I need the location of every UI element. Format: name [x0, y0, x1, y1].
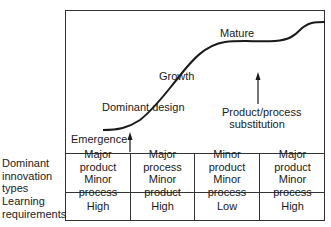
innovation-type-cell-mature: Minor product Minor process	[195, 154, 259, 192]
row-label-line: requirements	[2, 208, 66, 221]
substitution-line-1: Product/process	[222, 106, 292, 118]
learning-cell-emergence: High	[66, 193, 130, 220]
substitution-line-2: substitution	[222, 118, 292, 130]
stage-label-emergence: Emergence	[71, 133, 127, 145]
innovation-type-cell-substitution: Major product Minor process	[260, 154, 325, 192]
table-bottom-border	[65, 220, 325, 221]
learning-cell-dominant-design: High	[131, 193, 194, 220]
substitution-arrow	[256, 72, 261, 104]
substitution-annotation: Product/process substitution	[222, 106, 292, 130]
row-label-line: types	[2, 182, 52, 195]
stage-label-mature: Mature	[220, 27, 254, 39]
innovation-type-cell-dominant-design: Major process Minor product	[131, 154, 194, 192]
learning-cell-substitution: High	[260, 193, 325, 220]
row-label-innovation-types: Dominant innovation types	[2, 157, 52, 195]
row-label-learning-requirements: Learning requirements	[2, 195, 66, 220]
stage-label-dominant-design: Dominant design	[102, 101, 185, 113]
innovation-type-cell-emergence: Major product Minor process	[66, 154, 130, 192]
row-label-line: innovation	[2, 170, 52, 183]
row-label-line: Learning	[2, 195, 66, 208]
cell-line: Major process	[131, 148, 194, 173]
cell-line: Major product	[66, 148, 130, 173]
cell-line: Major product	[260, 148, 325, 173]
cell-line: Minor product	[195, 148, 259, 173]
learning-cell-mature: Low	[195, 193, 259, 220]
row-label-line: Dominant	[2, 157, 52, 170]
stage-label-growth: Growth	[159, 70, 194, 82]
